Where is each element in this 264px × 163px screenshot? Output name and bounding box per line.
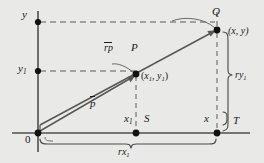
measure-x-label: x (204, 113, 209, 124)
origin-label: 0 (25, 134, 31, 145)
brace-ry1 (223, 32, 232, 131)
vector-rp-label: rp (104, 43, 113, 53)
point-x-on-axis (214, 130, 221, 137)
measure-ry1-label: ry1 (235, 70, 247, 81)
point-P-label: P (131, 42, 138, 53)
x1-subscript: 1 (129, 118, 133, 126)
point-y1-on-axis (35, 68, 41, 74)
point-Q-label: Q (212, 6, 220, 17)
point-S-label: S (144, 113, 150, 124)
origin-flourish (45, 137, 53, 141)
point-P (133, 71, 140, 78)
point-S (133, 130, 140, 137)
y-axis-label: y (22, 9, 27, 20)
ry1-subscript: 1 (243, 74, 246, 81)
measure-rx1-label: rx1 (118, 147, 130, 158)
vector-p-line (40, 78, 131, 131)
q-sweep-arc (172, 18, 215, 28)
paren-close: ) (165, 70, 168, 81)
y1-subscript: 1 (23, 68, 27, 76)
vector-p-text: p (90, 98, 96, 109)
point-T-label: T (233, 115, 239, 126)
rx1-subscript: 1 (126, 151, 129, 158)
point-y-on-axis (35, 19, 41, 25)
brace-T (223, 112, 227, 125)
y1-axis-label: y1 (18, 63, 27, 76)
point-origin (35, 130, 42, 137)
measure-x1-label: x1 (124, 113, 133, 126)
p-sweep-arc (112, 64, 134, 73)
vector-p-label: p (90, 98, 96, 109)
diagram-canvas (0, 0, 264, 163)
point-Q (214, 27, 221, 34)
point-P-coordinates-label: (x1, y1) (141, 71, 168, 82)
vector-rp-text: rp (104, 43, 113, 53)
vector-scaling-diagram: y y1 0 Q (x, y) rp P (x1, y1) p x1 S x T… (0, 0, 264, 163)
point-Q-coordinates-label: (x, y) (228, 26, 249, 36)
